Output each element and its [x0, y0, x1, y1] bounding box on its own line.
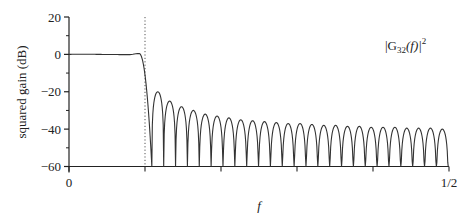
chart: 200−20−40−60 01/2 |G32(f)|2 squared gain… [0, 0, 474, 224]
y-tick-label: −40 [41, 122, 61, 137]
x-tick-label: 1/2 [441, 175, 458, 190]
x-tick-label: 0 [66, 175, 73, 190]
x-axis: 01/2 [64, 167, 457, 190]
y-axis: 200−20−40−60 [41, 10, 69, 175]
legend-annotation: |G32(f)|2 [385, 36, 426, 55]
y-axis-label: squared gain (dB) [14, 45, 29, 138]
gain-curve [69, 54, 448, 167]
x-axis-label: f [257, 198, 263, 213]
y-tick-label: −60 [41, 159, 61, 174]
y-tick-label: 0 [55, 47, 62, 62]
y-tick-label: −20 [41, 84, 61, 99]
y-tick-label: 20 [48, 10, 61, 25]
